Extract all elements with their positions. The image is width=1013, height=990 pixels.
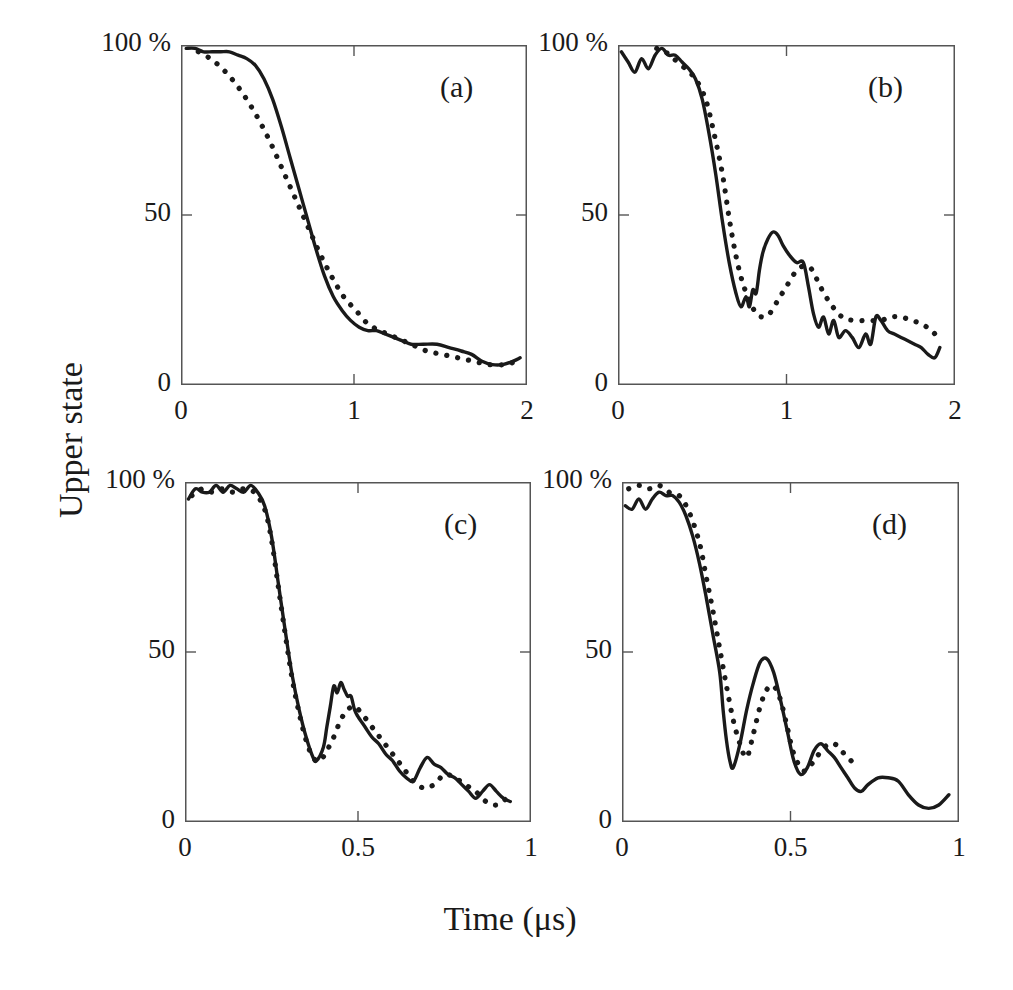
y-tick-label: 0 [41,367,171,398]
x-tick-label: 1 [919,832,999,863]
x-tick-label: 2 [915,395,995,426]
panel-label-d: (d) [872,507,907,541]
panel-d [622,482,973,836]
plot-frame [182,46,527,385]
panel-label-b: (b) [868,70,903,104]
plot-frame [619,46,955,385]
y-tick-label: 50 [41,197,171,228]
plot-area-d [622,482,973,836]
y-tick-label: 50 [482,634,612,665]
y-tick-label: 50 [45,634,175,665]
x-tick-label: 1 [747,395,827,426]
plot-frame [623,483,959,822]
x-axis-title: Time (μs) [350,900,670,938]
x-tick-label: 0 [145,832,225,863]
x-tick-label: 0 [141,395,221,426]
x-tick-label: 0.5 [751,832,831,863]
y-tick-label: 0 [45,804,175,835]
y-tick-label: 50 [478,197,608,228]
x-tick-label: 0 [582,832,662,863]
y-tick-label: 100 % [41,27,171,58]
y-tick-label: 100 % [45,464,175,495]
y-tick-label: 0 [478,367,608,398]
x-tick-label: 1 [491,832,571,863]
x-tick-label: 0.5 [318,832,398,863]
y-tick-label: 0 [482,804,612,835]
plot-area-b [618,45,969,399]
figure-root: Upper state Time (μs) 050100 %012(a)0501… [0,0,1013,990]
panel-label-c: (c) [444,507,477,541]
panel-label-a: (a) [440,70,473,104]
panel-b [618,45,969,399]
plot-frame [186,483,531,822]
x-tick-label: 0 [578,395,658,426]
x-tick-label: 2 [487,395,567,426]
x-tick-label: 1 [314,395,394,426]
y-tick-label: 100 % [478,27,608,58]
y-tick-label: 100 % [482,464,612,495]
